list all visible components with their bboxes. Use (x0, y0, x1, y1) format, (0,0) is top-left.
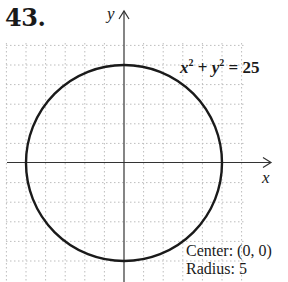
equation-plus: + (194, 58, 212, 77)
equation-x-variable: x (180, 58, 189, 77)
center-text: Center: (0, 0) (186, 242, 272, 260)
x-axis-label: x (262, 168, 270, 188)
radius-text: Radius: 5 (186, 260, 272, 278)
y-axis-label: y (107, 4, 115, 24)
circle-info: Center: (0, 0) Radius: 5 (186, 242, 272, 278)
circle-equation: x2 + y2 = 25 (180, 58, 259, 78)
equation-rhs: = 25 (224, 58, 259, 77)
coordinate-graph (0, 0, 288, 282)
